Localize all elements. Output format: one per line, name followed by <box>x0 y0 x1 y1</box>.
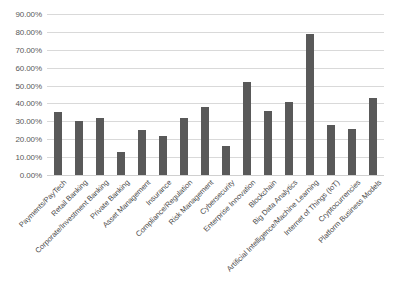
bar[interactable] <box>138 130 146 175</box>
bar-slot <box>363 14 384 175</box>
y-tick-label: 70.00% <box>15 45 42 54</box>
y-tick-label: 40.00% <box>15 99 42 108</box>
y-tick-label: 20.00% <box>15 135 42 144</box>
y-tick-label: 30.00% <box>15 117 42 126</box>
bar-slot <box>279 14 300 175</box>
bar[interactable] <box>117 152 125 175</box>
bar-slot <box>152 14 173 175</box>
y-tick-label: 60.00% <box>15 63 42 72</box>
bar-slot <box>194 14 215 175</box>
bar[interactable] <box>180 118 188 175</box>
bars-layer <box>47 14 384 175</box>
bar[interactable] <box>285 102 293 175</box>
bar-slot <box>110 14 131 175</box>
y-tick-label: 80.00% <box>15 27 42 36</box>
bar[interactable] <box>54 112 62 175</box>
bar[interactable] <box>159 136 167 175</box>
bar-slot <box>237 14 258 175</box>
bar-slot <box>321 14 342 175</box>
y-tick-label: 0.00% <box>20 171 42 180</box>
bar[interactable] <box>243 82 251 175</box>
bar-slot <box>131 14 152 175</box>
bar[interactable] <box>369 98 377 175</box>
bar[interactable] <box>201 107 209 175</box>
bar[interactable] <box>306 34 314 175</box>
y-tick-label: 50.00% <box>15 81 42 90</box>
bar-slot <box>68 14 89 175</box>
bar[interactable] <box>75 121 83 175</box>
bar-slot <box>216 14 237 175</box>
bar[interactable] <box>222 146 230 175</box>
bar[interactable] <box>327 125 335 175</box>
bar[interactable] <box>348 129 356 176</box>
y-tick-label: 10.00% <box>15 153 42 162</box>
y-tick-label: 90.00% <box>15 10 42 19</box>
x-axis: Payments/PayTechRetail BankingCorporate/… <box>47 176 384 293</box>
bar[interactable] <box>264 111 272 175</box>
bar-slot <box>300 14 321 175</box>
bar-slot <box>258 14 279 175</box>
bar-slot <box>47 14 68 175</box>
bar-slot <box>173 14 194 175</box>
bar-slot <box>342 14 363 175</box>
bar-slot <box>89 14 110 175</box>
bar[interactable] <box>96 118 104 175</box>
bar-chart: 90.00%80.00%70.00%60.00%50.00%40.00%30.0… <box>0 0 393 293</box>
